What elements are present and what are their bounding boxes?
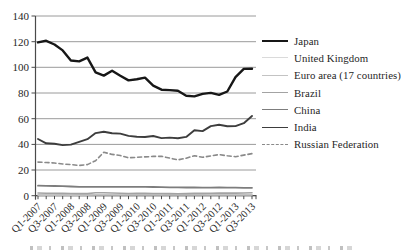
legend-line-swatch-china (262, 109, 288, 110)
legend-line-swatch-india (262, 127, 288, 128)
legend-item-china: China (262, 101, 401, 118)
series-line-russian-federation (38, 152, 252, 165)
y-tick-label: 100 (13, 61, 30, 73)
legend-line-swatch-japan (262, 40, 288, 42)
legend-line-swatch-brazil (262, 92, 288, 93)
series-line-china (38, 186, 252, 188)
caption-fragment (30, 246, 356, 250)
legend-item-euro-area: Euro area (17 countries) (262, 67, 401, 84)
legend-item-united-kingdom: United Kingdom (262, 49, 401, 66)
series-line-brazil (38, 193, 252, 194)
legend: JapanUnited KingdomEuro area (17 countri… (262, 32, 401, 153)
y-tick-label: 80 (18, 87, 30, 99)
legend-label-united-kingdom: United Kingdom (294, 52, 368, 64)
legend-line-swatch-russian-federation (262, 144, 288, 145)
y-tick-label: 140 (13, 10, 30, 22)
legend-label-euro-area: Euro area (17 countries) (294, 69, 401, 81)
legend-line-swatch-united-kingdom (262, 57, 288, 58)
legend-item-india: India (262, 118, 401, 135)
legend-label-russian-federation: Russian Federation (294, 138, 379, 150)
legend-label-japan: Japan (294, 35, 319, 47)
series-line-japan (38, 41, 252, 97)
legend-item-brazil: Brazil (262, 84, 401, 101)
y-tick-label: 20 (18, 164, 30, 176)
legend-item-russian-federation: Russian Federation (262, 136, 401, 153)
y-tick-label: 40 (18, 138, 30, 150)
legend-line-swatch-euro-area (262, 75, 288, 76)
y-tick-label: 120 (13, 36, 30, 48)
legend-label-china: China (294, 104, 320, 116)
legend-item-japan: Japan (262, 32, 401, 49)
legend-label-india: India (294, 121, 317, 133)
y-tick-label: 0 (24, 190, 30, 202)
legend-label-brazil: Brazil (294, 87, 321, 99)
series-line-india (38, 116, 252, 145)
y-tick-label: 60 (18, 113, 30, 125)
